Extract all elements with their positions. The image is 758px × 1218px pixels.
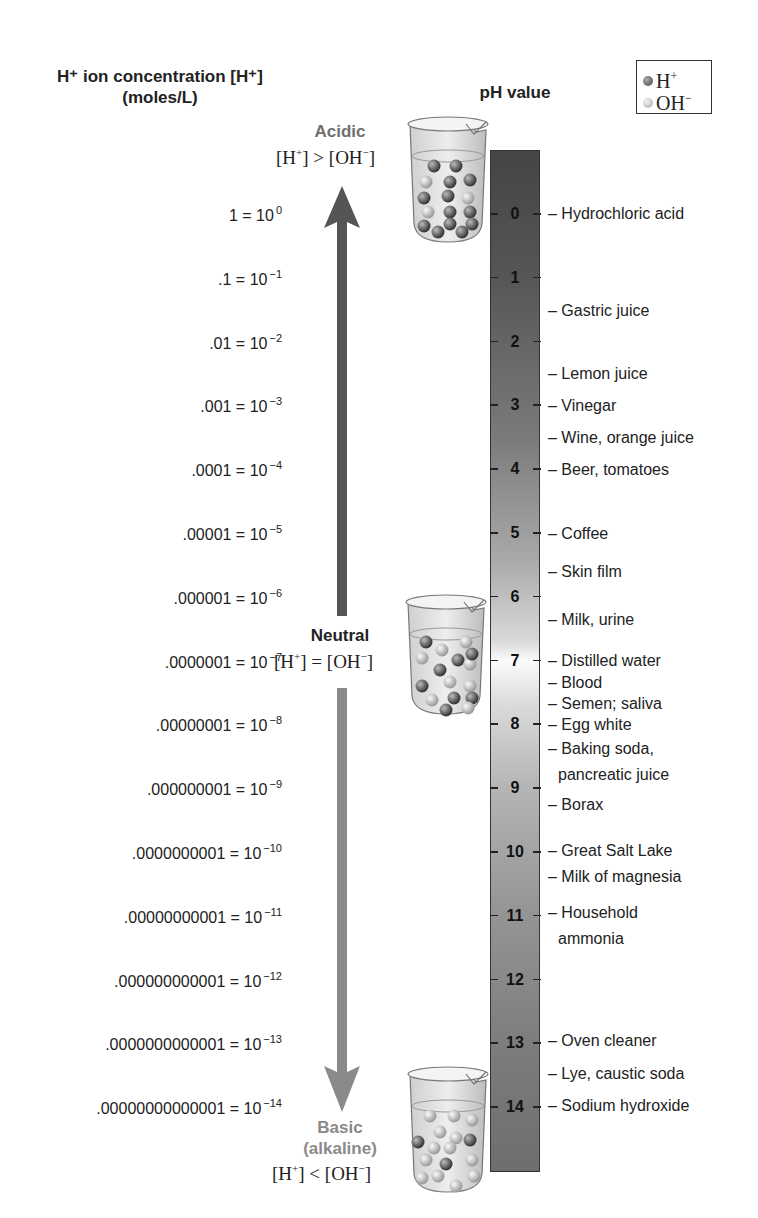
concentration-value: .0001 = 10−4 xyxy=(191,459,282,480)
concentration-value: .00001 = 10−5 xyxy=(182,523,282,544)
substance-label: – Coffee xyxy=(548,524,608,544)
ph-tick: 11 xyxy=(490,906,540,926)
concentration-value: .01 = 10−2 xyxy=(209,332,282,353)
ph-tick: 3 xyxy=(490,395,540,415)
substance-label: ammonia xyxy=(558,929,624,949)
ph-tick: 6 xyxy=(490,587,540,607)
ph-tick: 7 xyxy=(490,651,540,671)
concentration-value: .0000000000001 = 10−13 xyxy=(105,1033,282,1054)
substance-label: – Wine, orange juice xyxy=(548,428,694,448)
concentration-title: H⁺ ion concentration [H⁺] (moles/L) xyxy=(10,66,310,108)
neutral-condition: [H+] = [OH−] xyxy=(274,650,373,673)
concentration-value: .1 = 10−1 xyxy=(218,268,282,289)
substance-label: – Beer, tomatoes xyxy=(548,460,669,480)
substance-label: – Gastric juice xyxy=(548,301,649,321)
acidic-label: Acidic xyxy=(290,122,390,142)
basic-beaker-icon xyxy=(404,1062,492,1196)
substance-label: – Milk, urine xyxy=(548,610,634,630)
substance-label: – Milk of magnesia xyxy=(548,867,681,887)
oh-ion-dot-icon xyxy=(643,98,653,108)
substance-label: pancreatic juice xyxy=(558,765,669,785)
ph-tick: 2 xyxy=(490,332,540,352)
ph-title: pH value xyxy=(460,82,570,103)
ph-tick: 12 xyxy=(490,970,540,990)
ph-tick: 14 xyxy=(490,1097,540,1117)
ph-tick: 13 xyxy=(490,1033,540,1053)
substance-label: – Semen; saliva xyxy=(548,694,662,714)
substance-label: – Sodium hydroxide xyxy=(548,1096,689,1116)
ph-tick: 5 xyxy=(490,523,540,543)
concentration-value: .000001 = 10−6 xyxy=(174,587,282,608)
concentration-value: .0000000001 = 10−10 xyxy=(132,842,282,863)
ph-tick: 0 xyxy=(490,204,540,224)
concentration-value: .000000000001 = 10−12 xyxy=(114,970,282,991)
concentration-value: .00000000001 = 10−11 xyxy=(124,906,282,927)
concentration-value: .000000001 = 10−9 xyxy=(147,778,282,799)
concentration-value: .00000001 = 10−8 xyxy=(156,714,282,735)
ph-tick: 8 xyxy=(490,714,540,734)
acidic-condition: [H+] > [OH−] xyxy=(276,146,375,169)
ph-tick: 1 xyxy=(490,268,540,288)
acidic-arrow-icon xyxy=(324,186,360,616)
substance-label: – Vinegar xyxy=(548,396,616,416)
substance-label: – Borax xyxy=(548,795,603,815)
concentration-value: .001 = 10−3 xyxy=(200,395,282,416)
h-ion-dot-icon xyxy=(643,76,653,86)
legend: H+ OH− xyxy=(636,60,712,114)
substance-label: – Oven cleaner xyxy=(548,1031,657,1051)
basic-label: Basic (alkaline) xyxy=(290,1117,390,1159)
concentration-title-line2: (moles/L) xyxy=(10,87,310,108)
acidic-beaker-icon xyxy=(404,112,494,246)
substance-label: – Baking soda, xyxy=(548,739,654,759)
substance-label: – Egg white xyxy=(548,715,632,735)
substance-label: – Skin film xyxy=(548,562,622,582)
substance-label: – Blood xyxy=(548,673,602,693)
substance-label: – Lye, caustic soda xyxy=(548,1064,684,1084)
ph-tick: 10 xyxy=(490,842,540,862)
concentration-value: 1 = 100 xyxy=(229,204,282,225)
substance-label: – Great Salt Lake xyxy=(548,841,673,861)
legend-item-oh: OH− xyxy=(643,87,692,114)
substance-label: – Lemon juice xyxy=(548,364,648,384)
basic-condition: [H+] < [OH−] xyxy=(272,1162,371,1185)
neutral-beaker-icon xyxy=(402,590,494,718)
basic-arrow-icon xyxy=(324,688,360,1112)
substance-label: – Hydrochloric acid xyxy=(548,204,684,224)
ph-tick: 9 xyxy=(490,778,540,798)
neutral-label: Neutral xyxy=(290,626,390,646)
ph-tick: 4 xyxy=(490,459,540,479)
substance-label: – Household xyxy=(548,903,638,923)
concentration-title-line1: H⁺ ion concentration [H⁺] xyxy=(10,66,310,87)
concentration-value: .0000001 = 10−7 xyxy=(165,651,282,672)
concentration-value: .00000000000001 = 10−14 xyxy=(96,1097,282,1118)
substance-label: – Distilled water xyxy=(548,651,661,671)
